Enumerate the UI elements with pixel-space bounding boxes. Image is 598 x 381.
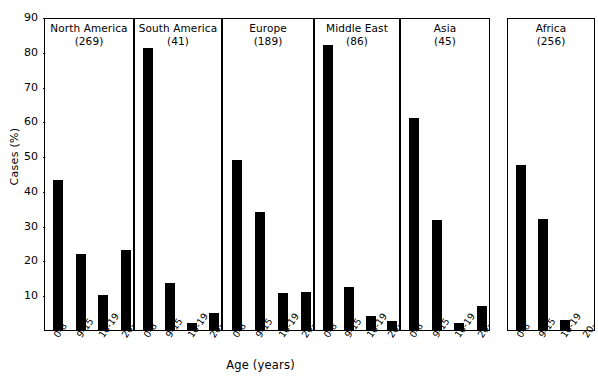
chart-panel: Europe(189)0-89-1516-1920- <box>222 18 314 331</box>
bar <box>121 250 131 330</box>
y-axis-tick-label: 90 <box>24 13 38 23</box>
bar <box>232 160 242 330</box>
bar <box>255 212 265 330</box>
bar-group <box>135 18 221 330</box>
y-axis-tick-label: 30 <box>24 222 38 232</box>
bar <box>516 165 526 330</box>
chart-panel: Africa(256)0-89-1516-1920- <box>507 18 595 331</box>
chart-panel: South America(41)0-89-1516-1920- <box>134 18 222 331</box>
bar <box>409 118 419 330</box>
bar <box>432 220 442 330</box>
bar <box>323 45 333 330</box>
bar-group <box>508 18 594 330</box>
y-axis-tick-label: 10 <box>24 291 38 301</box>
bar-group <box>223 18 313 330</box>
y-axis-tick-label: 80 <box>24 48 38 58</box>
y-axis-tick-label: 50 <box>24 152 38 162</box>
y-axis-tick-label: 70 <box>24 83 38 93</box>
bar-group <box>315 18 399 330</box>
bar <box>538 219 548 330</box>
y-axis: 908070605040302010 <box>0 0 48 381</box>
y-axis-tick-label: 20 <box>24 256 38 266</box>
bar-group <box>45 18 133 330</box>
y-axis-tick-label: 60 <box>24 117 38 127</box>
chart-panel: North America(269)0-89-1516-1920- <box>44 18 134 331</box>
bar <box>143 48 153 330</box>
bar <box>53 180 63 330</box>
panel-group: North America(269)0-89-1516-1920-South A… <box>44 18 518 331</box>
chart-panel: Middle East(86)0-89-1516-1920- <box>314 18 400 331</box>
y-axis-tick-label: 40 <box>24 187 38 197</box>
chart-panel: Asia(45)0-89-1516-1920- <box>400 18 490 331</box>
bar-group <box>401 18 489 330</box>
x-axis-label: Age (years) <box>0 358 521 372</box>
